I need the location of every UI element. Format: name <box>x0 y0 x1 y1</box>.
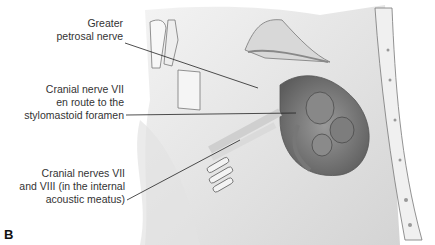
label-line: petrosal nerve <box>56 30 123 43</box>
label-line: acoustic meatus) <box>19 193 125 206</box>
label-line: stylomastoid foramen <box>24 109 124 122</box>
label-line: Cranial nerve VII <box>24 83 124 96</box>
panel-label: B <box>4 227 13 242</box>
label-line: en route to the <box>24 96 124 109</box>
label-cranial-nerves-vii-viii: Cranial nerves VII and VIII (in the inte… <box>19 167 125 206</box>
label-line: Cranial nerves VII <box>19 167 125 180</box>
label-greater-petrosal-nerve: Greater petrosal nerve <box>56 17 123 43</box>
label-cranial-nerve-vii: Cranial nerve VII en route to the stylom… <box>24 83 124 122</box>
label-line: and VIII (in the internal <box>19 180 125 193</box>
label-line: Greater <box>56 17 123 30</box>
